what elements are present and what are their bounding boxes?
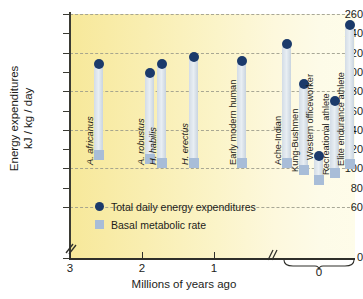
gridline-220 [70,53,355,54]
y-tick-240 [63,33,70,34]
bmr-square[interactable] [330,168,340,178]
tdee-dot[interactable] [145,68,155,78]
y-tick-label-60: 60 [329,202,363,213]
legend-label-total: Total daily energy expenditures [111,201,256,213]
series-label-elite-endurance-athlete: Elite endurance athlete [336,72,346,166]
legend-square-icon [95,220,104,229]
series-label-recreational-athlete: Recreational athlete [321,93,331,175]
tdee-dot[interactable] [237,56,247,66]
tdee-dot[interactable] [94,59,104,69]
gridline-260 [70,14,355,15]
tdee-dot[interactable] [345,20,355,30]
series-label-early-modern-human: Early modern human [228,80,238,165]
bmr-square[interactable] [345,159,355,169]
y-tick-100 [63,168,70,169]
stem [345,26,354,159]
x-tick-3 [70,252,71,258]
y-tick-120 [63,149,70,150]
zero-group-brace [283,259,355,271]
bmr-square[interactable] [299,165,309,175]
tdee-dot[interactable] [157,59,167,69]
series-label-h-erectus: H. erectus [180,123,190,165]
y-axis-title: Energy expenditures kJ / kg / day [7,13,36,223]
y-tick-60 [63,207,70,208]
y-tick-200 [63,72,70,73]
gridline-100 [70,168,355,169]
tdee-dot[interactable] [282,39,292,49]
x-tick-label-1: 1 [202,262,226,274]
bmr-square[interactable] [237,158,247,168]
stem [94,66,103,158]
y-tick-label-260: 260 [329,9,363,20]
y-tick-260 [63,14,70,15]
series-label-h-habilis: H. habilis [148,127,158,165]
bmr-square[interactable] [157,158,167,168]
legend-item-bmr: Basal metabolic rate [95,217,256,232]
x-axis-title: Millions of years ago [69,278,299,290]
energy-expenditure-chart: 260 240 220 200 180 160 140 120 100 80 6… [0,0,363,299]
x-tick-label-2: 2 [130,262,154,274]
x-tick-2 [142,252,143,258]
y-tick-220 [63,53,70,54]
series-label-a-africanus: A. africanus [85,116,95,165]
y-tick-160 [63,111,70,112]
x-axis-break-icon [264,249,282,261]
series-label-ache-indian: Ache-Indian [273,116,283,165]
tdee-dot[interactable] [189,52,199,62]
series-label-western-officeworker: Western officeworker [305,74,315,160]
legend-item-total: Total daily energy expenditures [95,199,256,214]
series-label-a-robustus: A. robustus [136,119,146,165]
y-axis-title-line2: kJ / kg / day [22,88,34,149]
legend-label-bmr: Basal metabolic rate [111,219,206,231]
stem [237,63,246,166]
legend-circle-icon [95,202,104,211]
series-label-kung-bushmen: Kung-Bushmen [290,109,300,172]
x-tick-label-3: 3 [58,262,82,274]
y-axis-break-icon [63,241,79,257]
chart-legend: Total daily energy expenditures Basal me… [95,199,256,235]
y-tick-180 [63,91,70,92]
bmr-square[interactable] [189,158,199,168]
y-tick-140 [63,130,70,131]
y-tick-label-80: 80 [329,183,363,194]
bmr-square[interactable] [94,150,104,160]
stem [157,66,166,166]
y-axis-title-line1: Energy expenditures [8,66,20,171]
stem [189,59,198,166]
y-axis-line [69,12,71,260]
y-tick-80 [63,188,70,189]
bmr-square[interactable] [314,175,324,185]
x-tick-1 [214,252,215,258]
